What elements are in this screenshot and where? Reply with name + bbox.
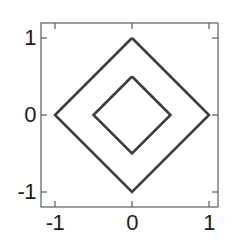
axes-frame (41, 23, 218, 207)
tick-marks (41, 23, 218, 207)
axes-spine-box (41, 23, 218, 207)
y-tick-label-0: 0 (24, 104, 36, 126)
x-tick-label-neg1: -1 (46, 212, 65, 234)
inner-diamond (94, 77, 171, 154)
x-tick-label-1: 1 (203, 212, 215, 234)
y-tick-label-neg1: -1 (17, 181, 36, 203)
data-curves (55, 38, 209, 192)
outer-diamond (55, 38, 209, 192)
y-tick-label-1: 1 (24, 27, 36, 49)
figure-container: -1 0 1 1 0 -1 (0, 0, 232, 248)
x-tick-label-0: 0 (126, 212, 138, 234)
